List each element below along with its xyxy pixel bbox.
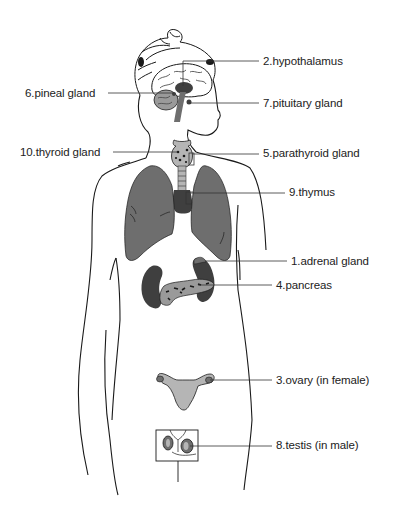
label-parathyroid-gland: 5.parathyroid gland	[263, 146, 360, 160]
label-hypothalamus: 2.hypothalamus	[263, 54, 343, 68]
hair-shadow	[138, 57, 144, 67]
pituitary-organ	[187, 100, 192, 105]
testis-organ	[156, 430, 198, 482]
hair-shadow-right	[206, 59, 214, 65]
label-pineal-gland: 6.pineal gland	[25, 86, 95, 100]
right-lung	[191, 166, 231, 261]
endocrine-system-diagram: 2.hypothalamus 6.pineal gland 7.pituitar…	[0, 0, 394, 520]
thymus-organ	[173, 190, 193, 214]
ovary-organ	[157, 373, 215, 410]
label-ovary: 3.ovary (in female)	[276, 373, 369, 387]
label-pancreas: 4.pancreas	[276, 278, 332, 292]
left-kidney	[141, 266, 162, 309]
label-thyroid-gland: 10.thyroid gland	[20, 145, 100, 159]
label-testis: 8.testis (in male)	[276, 438, 359, 452]
label-adrenal-gland: 1.adrenal gland	[291, 254, 369, 268]
label-thymus: 9.thymus	[289, 185, 335, 199]
label-pituitary-gland: 7.pituitary gland	[263, 96, 343, 110]
